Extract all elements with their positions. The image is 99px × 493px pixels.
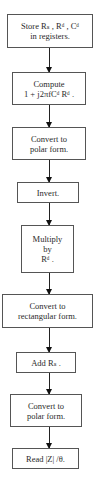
flow-arrow-icon [49,160,50,182]
flow-arrow-icon [49,328,50,352]
step-text: polar form. [27,411,65,421]
step-text: Add Rₛ . [31,358,61,368]
step-compute: Compute 1 + j2πfCᵈ Rᵈ . [12,72,86,105]
step-convert-to-polar-1: Convert to polar form. [12,127,86,160]
flow-arrow-icon [49,48,50,72]
step-text: in registers. [30,31,70,41]
step-text: Read |Z| /θ. [26,454,65,464]
step-convert-to-polar-2: Convert to polar form. [10,394,82,427]
step-multiply: Multiply by Rᵈ . [21,225,74,273]
step-text: Store Rₛ , Rᵈ , Cᵈ [21,21,79,31]
step-text: polar form. [30,144,68,154]
step-text: Rᵈ . [41,254,54,264]
step-text: Invert. [37,188,59,198]
flow-arrow-icon [49,105,50,127]
step-convert-to-rectangular: Convert to rectangular form. [2,294,93,328]
flow-arrow-icon [49,373,50,394]
step-add-rs: Add Rₛ . [16,352,76,373]
flow-arrow-icon [49,273,50,294]
step-store-in-registers: Store Rₛ , Rᵈ , Cᵈ in registers. [7,14,93,48]
step-text: Convert to [28,401,64,411]
step-text: 1 + j2πfCᵈ Rᵈ . [24,89,74,99]
flow-arrow-icon [49,427,50,448]
step-text: by [43,244,52,254]
step-read-result: Read |Z| /θ. [12,448,79,469]
step-text: rectangular form. [18,311,77,321]
flow-arrow-icon [49,203,50,225]
step-text: Multiply [33,234,63,244]
step-text: Convert to [31,134,67,144]
step-text: Convert to [29,301,65,311]
step-invert: Invert. [17,182,79,203]
step-text: Compute [33,79,64,89]
